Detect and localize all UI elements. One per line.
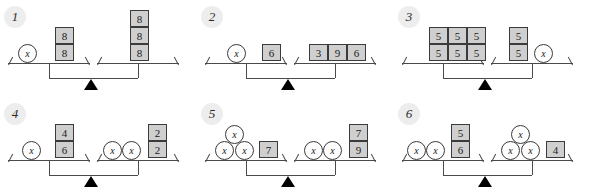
weight-box: 6 (55, 141, 74, 158)
balance-scale (394, 0, 591, 96)
weight-box: 5 (467, 27, 486, 44)
weight-box: 5 (429, 44, 448, 61)
right-hanger (138, 63, 139, 78)
weight-box: 8 (55, 27, 74, 44)
weight-box: 7 (259, 141, 278, 158)
weight-box: 8 (55, 44, 74, 61)
balance-panel-4: 446x22xx (0, 97, 197, 193)
weight-box: 5 (509, 27, 528, 44)
variable-circle: x (426, 141, 445, 160)
fulcrum-triangle (84, 176, 98, 187)
left-hanger (443, 160, 444, 175)
right-hanger (532, 63, 533, 78)
variable-circle: x (103, 141, 122, 160)
weight-box: 5 (467, 44, 486, 61)
weight-box: 2 (148, 124, 167, 141)
right-hanger (335, 160, 336, 175)
variable-circle: x (227, 44, 246, 63)
weight-box: 5 (451, 124, 470, 141)
balance-panel-2: 26x396 (197, 0, 394, 96)
left-hanger (49, 160, 50, 175)
fulcrum-triangle (281, 176, 295, 187)
variable-circle: x (323, 141, 342, 160)
weight-box: 6 (451, 141, 470, 158)
weight-box: 4 (55, 124, 74, 141)
weight-box: 6 (347, 44, 366, 61)
variable-circle: x (304, 141, 323, 160)
variable-circle: x (215, 141, 234, 160)
variable-circle: x (22, 141, 41, 160)
fulcrum-triangle (281, 79, 295, 90)
variable-circle: x (235, 141, 254, 160)
fulcrum-triangle (478, 79, 492, 90)
variable-circle: x (18, 44, 37, 63)
left-hanger (246, 160, 247, 175)
balance-panel-3: 355555555x (394, 0, 591, 96)
left-hanger (443, 63, 444, 78)
weight-box: 6 (262, 44, 281, 61)
weight-box: 9 (349, 141, 368, 158)
weight-box: 9 (328, 44, 347, 61)
weight-box: 2 (148, 141, 167, 158)
balance-panel-5: 57xxx79xx (197, 97, 394, 193)
weight-box: 3 (309, 44, 328, 61)
variable-circle: x (521, 141, 540, 160)
left-hanger (49, 63, 50, 78)
weight-box: 5 (448, 44, 467, 61)
weight-box: 8 (130, 10, 149, 27)
variable-circle: x (407, 141, 426, 160)
fulcrum-triangle (478, 176, 492, 187)
balance-scale-worksheet: 188x88826x396355555555x446x22xx57xxx79xx… (0, 0, 592, 193)
weight-box: 7 (349, 124, 368, 141)
balance-panel-1: 188x888 (0, 0, 197, 96)
right-hanger (138, 160, 139, 175)
weight-box: 5 (429, 27, 448, 44)
fulcrum-triangle (84, 79, 98, 90)
weight-box: 8 (130, 44, 149, 61)
weight-box: 4 (546, 141, 565, 158)
weight-box: 5 (509, 44, 528, 61)
right-hanger (532, 160, 533, 175)
weight-box: 5 (448, 27, 467, 44)
variable-circle: x (122, 141, 141, 160)
balance-panel-6: 656xx4xxx (394, 97, 591, 193)
variable-circle: x (534, 44, 553, 63)
weight-box: 8 (130, 27, 149, 44)
left-hanger (246, 63, 247, 78)
variable-circle: x (501, 141, 520, 160)
right-hanger (335, 63, 336, 78)
